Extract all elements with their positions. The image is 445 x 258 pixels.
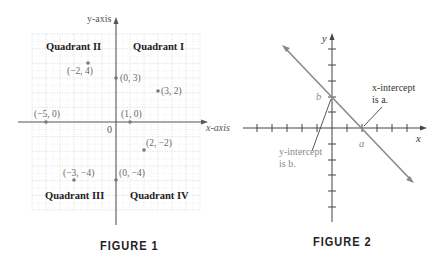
- point-2-neg2: [142, 148, 146, 152]
- y-intercept-leader: [312, 99, 331, 151]
- point-label: (0, 3): [120, 73, 141, 84]
- point-0-3: [114, 76, 118, 80]
- x-axis-label: x: [415, 133, 421, 144]
- a-label: a: [359, 138, 364, 149]
- y-axis-label: y-axis: [87, 13, 112, 24]
- quadrant-i-label: Quadrant I: [133, 41, 184, 52]
- y-intercept-annotation-line1: y-intercept: [279, 146, 323, 157]
- point-0-neg4: [114, 178, 118, 182]
- x-intercept-annotation-line2: is a.: [372, 94, 388, 105]
- point-neg3-neg4: [72, 178, 76, 182]
- figure-1-coordinate-plane: y-axis x-axis 0 Quadrant II Quadrant I Q…: [18, 13, 230, 225]
- point-1-0: [128, 120, 132, 124]
- point-3-2: [156, 89, 160, 93]
- quadrant-iii-label: Quadrant III: [45, 190, 104, 201]
- x-intercept-leader: [364, 107, 382, 126]
- point-neg2-4: [86, 61, 90, 65]
- figure-canvas: y-axis x-axis 0 Quadrant II Quadrant I Q…: [0, 0, 445, 258]
- y-axis-label: y: [321, 33, 327, 44]
- point-label: (−2, 4): [67, 66, 93, 77]
- figure-2-caption: FIGURE 2: [313, 235, 372, 248]
- origin-label: 0: [107, 124, 112, 135]
- point-label: (3, 2): [161, 86, 182, 97]
- x-axis-label: x-axis: [205, 122, 230, 133]
- point-neg5-0: [44, 120, 48, 124]
- y-axis-arrow-icon: [330, 33, 335, 40]
- point-label: (0, −4): [119, 168, 145, 179]
- x-intercept-annotation-line1: x-intercept: [372, 82, 416, 93]
- quadrant-ii-label: Quadrant II: [46, 41, 101, 52]
- figure-2-intercepts: y x b a x-intercept is a. y-intercept is…: [243, 33, 427, 222]
- point-label: (−3, −4): [63, 168, 94, 179]
- point-label: (2, −2): [146, 138, 172, 149]
- b-label: b: [316, 91, 321, 102]
- point-label: (1, 0): [121, 109, 142, 120]
- x-axis-arrow-icon: [420, 126, 427, 131]
- quadrant-iv-label: Quadrant IV: [130, 190, 189, 201]
- point-label: (−5, 0): [34, 109, 60, 120]
- line-with-intercepts: [286, 49, 410, 179]
- y-axis-arrow-icon: [114, 17, 119, 24]
- y-intercept-annotation-line2: is b.: [279, 158, 296, 169]
- figure-1-caption: FIGURE 1: [100, 239, 159, 252]
